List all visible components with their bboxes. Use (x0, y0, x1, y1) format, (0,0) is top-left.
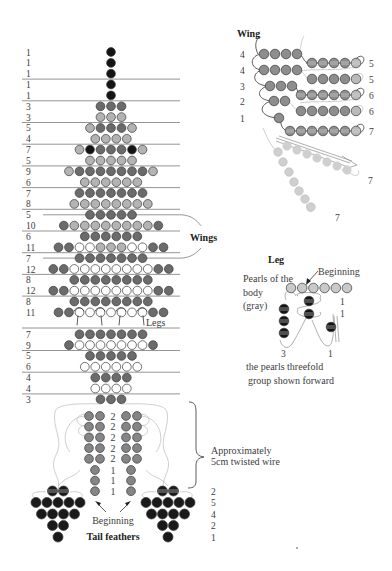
bead (85, 444, 94, 453)
bead (70, 200, 79, 209)
bead (133, 265, 142, 274)
bead (59, 521, 69, 531)
bead (279, 304, 289, 314)
bead (158, 486, 168, 496)
bead (86, 243, 95, 252)
bead (59, 286, 68, 295)
wing-right-count: 5 (369, 75, 374, 85)
bead (31, 498, 41, 508)
wing-tip-strands (274, 136, 359, 211)
bead (122, 265, 131, 274)
bead (75, 498, 85, 508)
bead (107, 243, 116, 252)
leg-strand (77, 315, 78, 325)
body-row: 1 (26, 80, 115, 90)
bead (91, 232, 100, 241)
bead (122, 384, 131, 393)
bead (122, 200, 131, 209)
bead (128, 167, 137, 176)
right-tail-feather (141, 486, 195, 542)
bead (127, 476, 136, 485)
bead (323, 158, 331, 166)
tail-pair-row: 2 (85, 432, 142, 443)
bead (128, 308, 137, 317)
leg-right-count: 1 (328, 349, 333, 359)
bead (158, 521, 168, 531)
bead (59, 265, 68, 274)
bead (59, 221, 68, 230)
bead (133, 454, 142, 463)
body-row: 7 (26, 145, 147, 155)
tail-single-row: 1 (91, 486, 136, 497)
strand-b-count: 7 (335, 213, 340, 223)
bead (59, 509, 69, 519)
row-count-label: 1 (26, 58, 31, 68)
bead (101, 178, 110, 187)
bead (320, 283, 330, 293)
bead (340, 74, 350, 84)
row-count-label: 8 (26, 297, 31, 307)
bead (141, 498, 151, 508)
bead (285, 168, 293, 176)
bead (342, 283, 352, 293)
bead (75, 145, 84, 154)
bead (313, 154, 321, 162)
bead (159, 243, 168, 252)
bead (295, 187, 303, 195)
left-tail-feather (31, 486, 85, 542)
bead (91, 297, 100, 306)
bead (117, 395, 126, 404)
wing-left-row: 4 (240, 49, 302, 59)
bead (128, 352, 137, 361)
row-count-label: 3 (26, 113, 31, 123)
leg-diagram-title: Leg (268, 254, 284, 265)
bead (117, 352, 126, 361)
bead (128, 341, 137, 350)
row-count-label: 5 (26, 123, 31, 133)
bead (128, 330, 137, 339)
bead (152, 498, 162, 508)
bead (122, 286, 131, 295)
wing-left-count: 2 (240, 97, 245, 107)
bead (269, 96, 279, 106)
bead (86, 330, 95, 339)
bead (329, 106, 339, 116)
bead (122, 134, 131, 143)
bead (128, 145, 137, 154)
bead (91, 373, 100, 382)
row-count-label: 11 (26, 243, 35, 253)
bead (86, 308, 95, 317)
bead (91, 178, 100, 187)
bead (307, 203, 315, 211)
bead (53, 532, 63, 542)
bead (91, 466, 100, 475)
wing-left-count: 4 (240, 50, 245, 60)
feather-row-counts: 25421 (211, 487, 216, 543)
bead (329, 58, 339, 68)
bead (96, 444, 105, 453)
body-row: 12 (26, 286, 173, 296)
bead (117, 330, 126, 339)
bead (91, 384, 100, 393)
bead (80, 200, 89, 209)
bead (169, 486, 179, 496)
bead (112, 286, 121, 295)
arrow-up-left-icon (95, 501, 101, 506)
bead (296, 126, 306, 136)
body-row: 3 (26, 113, 126, 123)
bead (122, 297, 131, 306)
bead (128, 210, 137, 219)
body-row: 8 (26, 275, 152, 285)
bead (107, 80, 116, 89)
bead (80, 276, 89, 285)
bead (96, 454, 105, 463)
bead (149, 167, 158, 176)
bead (301, 195, 309, 203)
bead (70, 276, 79, 285)
bead (351, 106, 361, 116)
bead (128, 156, 137, 165)
bead (37, 509, 47, 519)
wing-left-row: 1 (240, 113, 284, 123)
bead (107, 156, 116, 165)
body-row: 1 (26, 58, 115, 68)
